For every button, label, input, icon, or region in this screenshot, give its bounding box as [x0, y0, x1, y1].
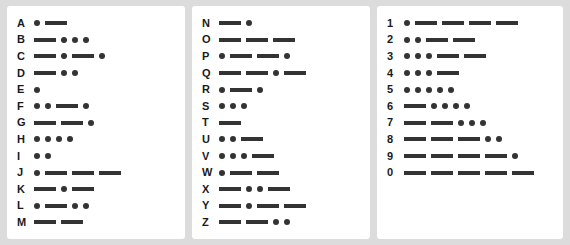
- row-label: 7: [387, 117, 404, 128]
- dot-icon: [496, 136, 502, 142]
- morse-symbols: [219, 198, 306, 215]
- row-label: J: [17, 167, 34, 178]
- morse-symbols: [34, 32, 89, 49]
- dot-icon: [241, 103, 247, 109]
- dash-icon: [257, 54, 279, 58]
- dot-icon: [426, 70, 432, 76]
- morse-symbols: [34, 214, 83, 231]
- morse-row-1: 1: [387, 15, 557, 32]
- dot-icon: [453, 103, 459, 109]
- dash-icon: [61, 220, 83, 224]
- dot-icon: [480, 120, 486, 126]
- morse-row-q: Q: [202, 65, 364, 82]
- dot-icon: [61, 37, 67, 43]
- row-label: K: [17, 184, 34, 195]
- dash-icon: [45, 171, 67, 175]
- row-label: 1: [387, 18, 404, 29]
- dash-icon: [496, 21, 518, 25]
- morse-row-n: N: [202, 15, 364, 32]
- dot-icon: [34, 203, 40, 209]
- dot-icon: [458, 120, 464, 126]
- row-label: V: [202, 151, 219, 162]
- dot-icon: [404, 37, 410, 43]
- morse-symbols: [404, 148, 518, 165]
- panel-letters-n-z: NOPQRSTUVWXYZ: [192, 6, 370, 239]
- dash-icon: [426, 38, 448, 42]
- dot-icon: [61, 186, 67, 192]
- row-label: 3: [387, 51, 404, 62]
- dash-icon: [469, 21, 491, 25]
- morse-symbols: [404, 115, 486, 132]
- morse-row-u: U: [202, 131, 364, 148]
- dash-icon: [219, 220, 241, 224]
- morse-symbols: [219, 148, 274, 165]
- dot-icon: [469, 120, 475, 126]
- dot-icon: [485, 136, 491, 142]
- morse-symbols: [34, 65, 78, 82]
- dot-icon: [404, 53, 410, 59]
- morse-symbols: [219, 214, 290, 231]
- morse-row-j: J: [17, 164, 179, 181]
- dash-icon: [219, 187, 241, 191]
- dash-icon: [241, 137, 263, 141]
- dash-icon: [437, 71, 459, 75]
- morse-row-a: A: [17, 15, 179, 32]
- morse-symbols: [219, 65, 306, 82]
- dot-icon: [56, 136, 62, 142]
- dash-icon: [45, 21, 67, 25]
- panel-letters-a-m: ABCDEFGHIJKLM: [7, 6, 185, 239]
- dot-icon: [437, 87, 443, 93]
- dash-icon: [34, 220, 56, 224]
- dot-icon: [404, 87, 410, 93]
- morse-symbols: [404, 32, 475, 49]
- dot-icon: [415, 70, 421, 76]
- row-label: S: [202, 101, 219, 112]
- dash-icon: [230, 171, 252, 175]
- dot-icon: [83, 203, 89, 209]
- morse-row-r: R: [202, 81, 364, 98]
- dash-icon: [34, 71, 56, 75]
- dot-icon: [83, 103, 89, 109]
- morse-symbols: [219, 131, 263, 148]
- row-label: Q: [202, 68, 219, 79]
- morse-symbols: [34, 164, 121, 181]
- row-label: 8: [387, 134, 404, 145]
- dot-icon: [72, 70, 78, 76]
- morse-symbols: [34, 81, 40, 98]
- dot-icon: [219, 103, 225, 109]
- dash-icon: [415, 21, 437, 25]
- dash-icon: [72, 54, 94, 58]
- dash-icon: [34, 54, 56, 58]
- dot-icon: [34, 103, 40, 109]
- dash-icon: [257, 204, 279, 208]
- dash-icon: [219, 21, 241, 25]
- dash-icon: [458, 137, 480, 141]
- morse-row-z: Z: [202, 214, 364, 231]
- dot-icon: [448, 87, 454, 93]
- dot-icon: [45, 103, 51, 109]
- dot-icon: [241, 153, 247, 159]
- dash-icon: [246, 38, 268, 42]
- dash-icon: [431, 137, 453, 141]
- dot-icon: [99, 53, 105, 59]
- dash-icon: [219, 204, 241, 208]
- dash-icon: [458, 154, 480, 158]
- morse-symbols: [219, 115, 241, 132]
- dash-icon: [453, 38, 475, 42]
- row-label: M: [17, 217, 34, 228]
- dot-icon: [257, 87, 263, 93]
- dot-icon: [273, 219, 279, 225]
- dash-icon: [404, 104, 426, 108]
- dot-icon: [464, 103, 470, 109]
- dot-icon: [512, 153, 518, 159]
- dot-icon: [442, 103, 448, 109]
- row-label: P: [202, 51, 219, 62]
- morse-row-g: G: [17, 115, 179, 132]
- morse-symbols: [34, 181, 94, 198]
- row-label: G: [17, 117, 34, 128]
- dot-icon: [83, 37, 89, 43]
- row-label: O: [202, 34, 219, 45]
- dot-icon: [431, 103, 437, 109]
- dash-icon: [485, 154, 507, 158]
- dot-icon: [246, 20, 252, 26]
